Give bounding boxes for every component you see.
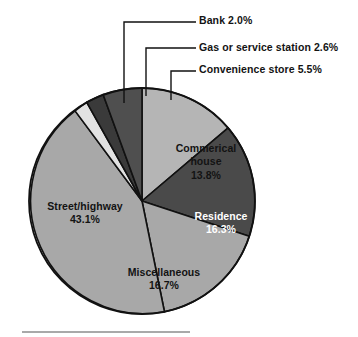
slice-label-miscellaneous: Miscellaneous 16.7% [112, 266, 216, 293]
pie-chart-figure: Bank 2.0% Gas or service station 2.6% Co… [0, 0, 358, 337]
slice-value-residence: 16.3% [206, 223, 236, 235]
slice-label-commerical-house-line1: Commerical [176, 142, 237, 154]
callout-label-convenience-store: Convenience store 5.5% [199, 63, 322, 75]
callout-label-gas-station: Gas or service station 2.6% [199, 41, 338, 53]
callout-label-bank: Bank 2.0% [199, 14, 252, 26]
slice-label-street-highway: Street/highway 43.1% [28, 200, 142, 227]
slice-label-commerical-house-line2: house [190, 155, 221, 167]
slice-value-street-highway: 43.1% [70, 213, 100, 225]
slice-value-commerical-house: 13.8% [191, 169, 221, 181]
slice-label-commerical-house: Commerical house 13.8% [163, 142, 249, 182]
slice-label-street-highway-name: Street/highway [47, 200, 122, 212]
slice-label-miscellaneous-name: Miscellaneous [128, 266, 200, 278]
slice-value-miscellaneous: 16.7% [149, 279, 179, 291]
slice-label-residence: Residence 16.3% [180, 210, 262, 237]
slice-label-residence-name: Residence [195, 210, 248, 222]
